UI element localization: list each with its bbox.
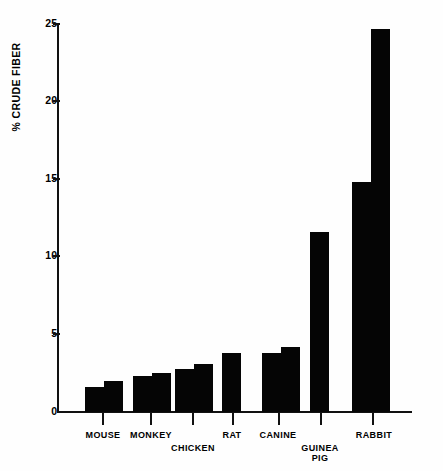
x-tick-mark-rat — [232, 413, 234, 425]
x-tick-label-rabbit: RABBIT — [344, 430, 404, 440]
x-tick-label-guinea-pig-line1: GUINEA — [301, 443, 338, 453]
bar-rat-1 — [222, 353, 241, 412]
x-tick-label-guinea-pig: GUINEA PIG — [290, 443, 350, 463]
bar-chart: % CRUDE FIBER 25 20 15 10 5 0 MOUSE MONK… — [0, 0, 443, 471]
x-tick-label-chicken: CHICKEN — [160, 443, 226, 453]
bar-canine-2 — [281, 347, 300, 412]
x-tick-mark-rabbit — [372, 413, 374, 425]
bar-chicken-1 — [175, 369, 194, 412]
bar-mouse-1 — [85, 387, 104, 412]
x-tick-mark-guinea-pig — [320, 413, 322, 425]
bar-rabbit-1 — [352, 182, 371, 412]
bar-monkey-1 — [133, 376, 152, 412]
x-tick-label-guinea-pig-line2: PIG — [312, 453, 329, 463]
bar-canine-1 — [262, 353, 281, 412]
x-tick-mark-chicken — [192, 413, 194, 425]
bar-mouse-2 — [104, 381, 123, 412]
x-tick-mark-mouse — [102, 413, 104, 425]
x-tick-label-monkey: MONKEY — [118, 430, 184, 440]
bar-guinea-pig-1 — [310, 232, 329, 412]
bar-rabbit-2 — [371, 29, 390, 412]
bar-chicken-2 — [194, 364, 213, 412]
x-tick-label-canine: CANINE — [248, 430, 308, 440]
x-tick-mark-monkey — [150, 413, 152, 425]
x-tick-mark-canine — [278, 413, 280, 425]
bar-monkey-2 — [152, 373, 171, 412]
plot-area — [0, 0, 443, 471]
